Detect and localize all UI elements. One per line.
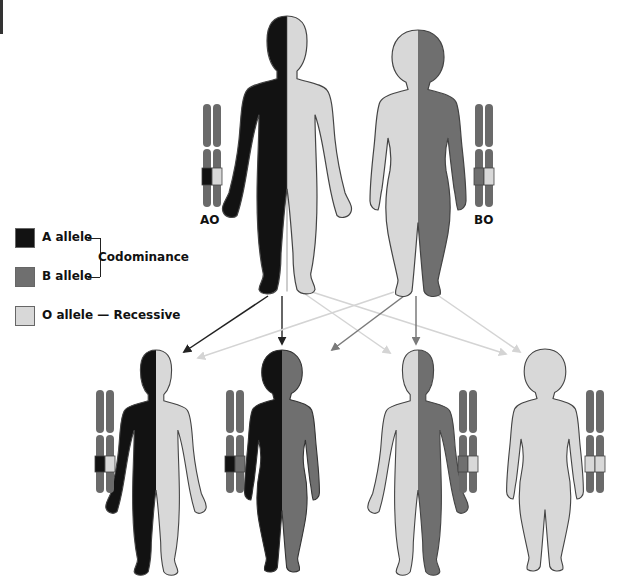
child-1-figure	[106, 350, 207, 575]
legend-label-o: O allele — Recessive	[42, 308, 180, 322]
chromosome-pair-child-2	[225, 390, 245, 493]
child-4-figure	[507, 349, 584, 571]
legend-label-a: A allele	[42, 230, 92, 244]
legend-swatch-o	[15, 306, 35, 326]
abo-inheritance-diagram: AO BO A allele B allele Codominance O al…	[0, 0, 619, 577]
mother-figure	[370, 30, 466, 296]
mother-genotype-label: BO	[474, 213, 493, 227]
child-3-figure	[368, 350, 469, 575]
legend-swatch-b	[15, 267, 35, 287]
chromosome-pair-mother	[474, 104, 494, 207]
bracket-b-line	[88, 277, 100, 278]
legend-o-dash: —	[97, 308, 109, 322]
arrow-mother-child4	[436, 294, 520, 352]
arrow-mother-child2	[332, 296, 404, 350]
chromosome-pair-father	[202, 104, 222, 207]
chromosome-pair-child-3	[458, 390, 478, 493]
diagram-canvas	[0, 0, 619, 577]
arrow-father-child1	[184, 296, 268, 352]
bracket-a-line	[88, 238, 100, 239]
chromosome-pair-child-4	[585, 390, 605, 493]
inheritance-arrows	[184, 292, 520, 358]
chromosome-pair-child-1	[95, 390, 115, 493]
legend-codominance: Codominance	[98, 250, 189, 264]
child-2-figure	[245, 350, 320, 572]
father-genotype-label: AO	[200, 213, 220, 227]
legend-o-note: Recessive	[113, 308, 180, 322]
legend-label-b: B allele	[42, 269, 92, 283]
legend-swatch-a	[15, 228, 35, 248]
legend-o-label: O allele	[42, 308, 93, 322]
father-figure	[222, 16, 351, 294]
